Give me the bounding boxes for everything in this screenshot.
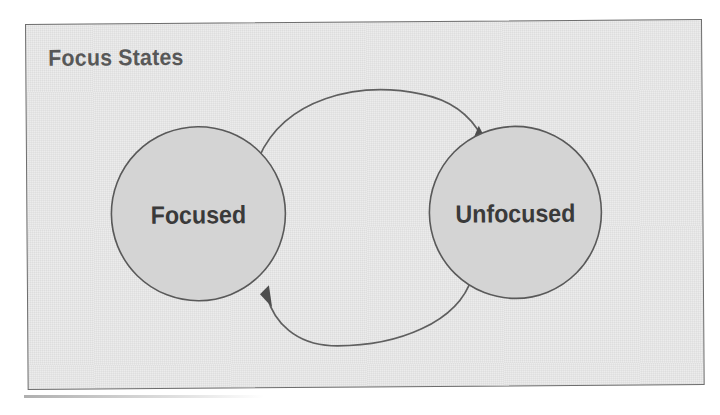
state-node-focused[interactable]: Focused: [111, 126, 286, 301]
transition-unfocused-to-focused: [260, 278, 472, 347]
state-transition-diagram: Focused Unfocused: [26, 20, 706, 391]
scan-smudge: [24, 395, 264, 398]
state-label-unfocused: Unfocused: [455, 199, 575, 228]
page-title: Focus States: [48, 44, 184, 72]
diagram-canvas: Focus States Focused Unfocused: [0, 0, 720, 415]
transition-arc-top: [258, 89, 481, 157]
transition-arc-bottom: [267, 278, 472, 347]
focus-states-panel: Focus States Focused Unfocused: [25, 19, 705, 390]
state-node-unfocused[interactable]: Unfocused: [429, 126, 602, 299]
state-label-focused: Focused: [151, 200, 247, 229]
arrow-head-left-icon: [260, 285, 272, 307]
transition-focused-to-unfocused: [258, 89, 488, 157]
